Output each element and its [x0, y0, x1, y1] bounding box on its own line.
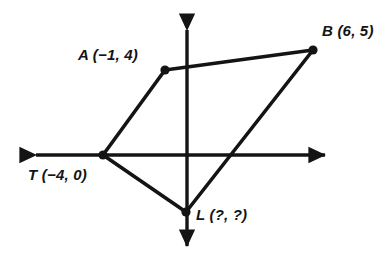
- vertex-dots: [98, 45, 317, 216]
- coordinate-plane-figure: A (−1, 4) B (6, 5) T (−4, 0) L (?, ?): [0, 0, 390, 266]
- point-t-label: T (−4, 0): [28, 166, 87, 183]
- point-a-label: A (−1, 4): [78, 46, 138, 63]
- point-a-dot: [160, 65, 169, 74]
- figure-canvas: [0, 0, 390, 266]
- point-t-dot: [98, 150, 107, 159]
- point-l-dot: [181, 207, 190, 216]
- point-b-label: B (6, 5): [322, 22, 374, 39]
- point-b-dot: [308, 45, 317, 54]
- polygon-tabl: [103, 50, 313, 212]
- polygon-tabl-outline: [103, 50, 313, 212]
- point-l-label: L (?, ?): [196, 206, 247, 223]
